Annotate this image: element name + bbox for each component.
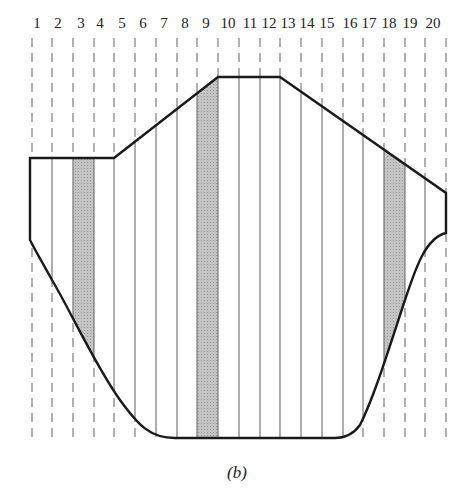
strip-label-10: 10: [221, 15, 236, 31]
strip-label-5: 5: [118, 15, 126, 31]
strip-label-6: 6: [139, 15, 147, 31]
strip-area-diagram: 1 2 3 4 5 6 7 8 9 10 11 12 13 14 15 16 1…: [0, 0, 471, 496]
strip-label-11: 11: [243, 15, 257, 31]
shaded-strip-9: [197, 0, 218, 496]
strip-labels: 1 2 3 4 5 6 7 8 9 10 11 12 13 14 15 16 1…: [33, 15, 440, 31]
strip-label-20: 20: [426, 15, 441, 31]
shaded-strip-18: [384, 0, 405, 496]
figure-caption: (b): [227, 463, 247, 482]
strip-label-9: 9: [202, 15, 210, 31]
strip-label-3: 3: [77, 15, 85, 31]
strip-label-19: 19: [403, 15, 418, 31]
strip-label-4: 4: [96, 15, 104, 31]
shaded-strip-3: [73, 0, 94, 496]
strip-label-12: 12: [262, 15, 277, 31]
strip-label-18: 18: [382, 15, 397, 31]
strip-label-2: 2: [54, 15, 62, 31]
strip-label-13: 13: [281, 15, 296, 31]
strip-label-16: 16: [343, 15, 359, 31]
strip-label-17: 17: [362, 15, 378, 31]
strip-label-15: 15: [320, 15, 335, 31]
strip-label-7: 7: [160, 15, 168, 31]
strip-label-8: 8: [181, 15, 189, 31]
strip-label-14: 14: [300, 15, 316, 31]
strip-label-1: 1: [33, 15, 41, 31]
